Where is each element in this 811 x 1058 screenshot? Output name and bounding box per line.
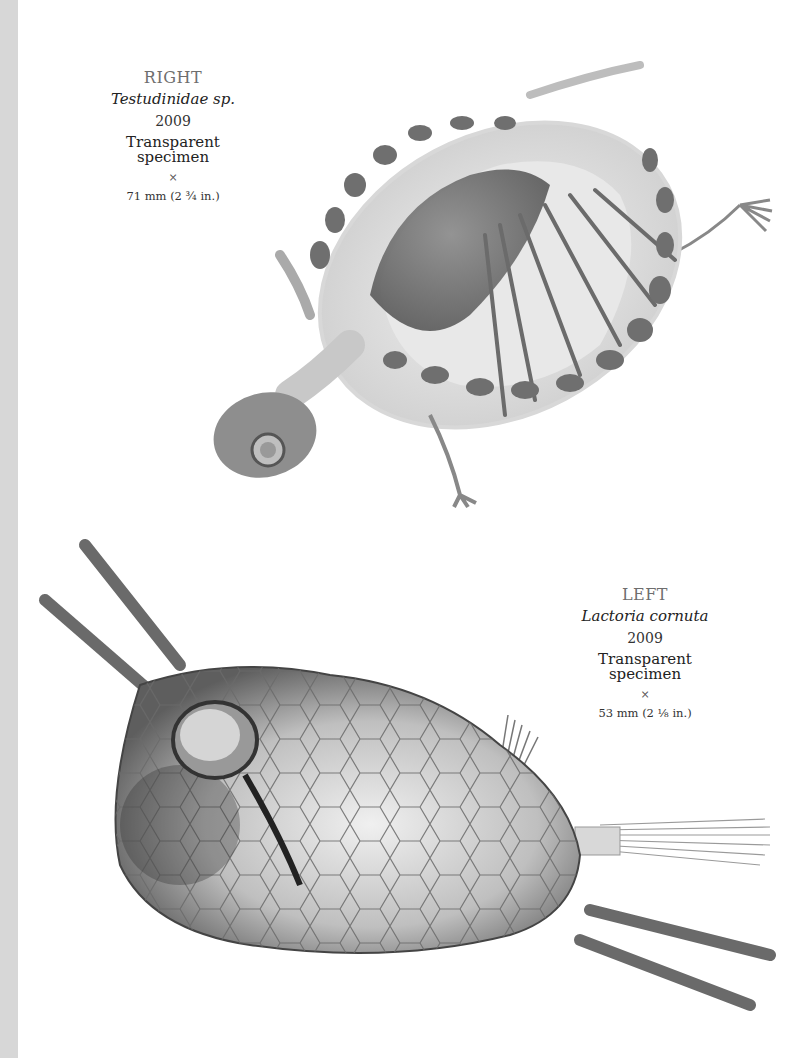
species-name: Lactoria cornuta	[560, 609, 730, 624]
side-label: LEFT	[560, 587, 730, 603]
turtle-specimen-image	[200, 55, 790, 525]
side-label: RIGHT	[88, 70, 258, 86]
year: 2009	[560, 631, 730, 645]
medium: Transparent specimen	[88, 135, 258, 165]
medium: Transparent specimen	[560, 652, 730, 682]
times-symbol: ×	[88, 172, 258, 183]
dimensions: 53 mm (2 ⅛ in.)	[560, 708, 730, 720]
year: 2009	[88, 114, 258, 128]
page-edge-strip	[0, 0, 18, 1058]
caption-left-entry: LEFT Lactoria cornuta 2009 Transparent s…	[560, 587, 730, 720]
dimensions: 71 mm (2 ¾ in.)	[88, 191, 258, 203]
caption-right-entry: RIGHT Testudinidae sp. 2009 Transparent …	[88, 70, 258, 203]
times-symbol: ×	[560, 689, 730, 700]
species-name: Testudinidae sp.	[88, 92, 258, 107]
